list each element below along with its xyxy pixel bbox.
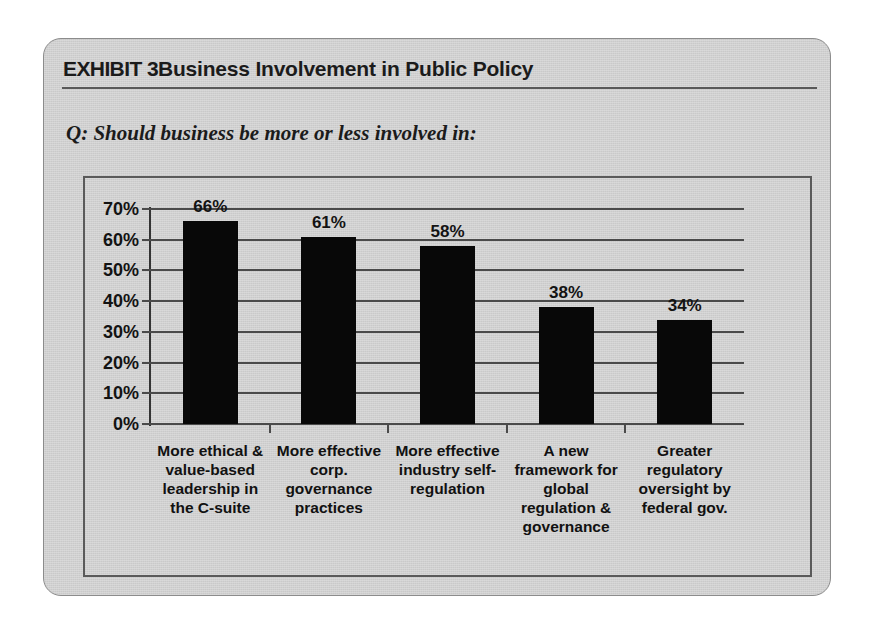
category-label-line: More effective bbox=[265, 441, 393, 460]
bar-value-label: 66% bbox=[193, 197, 227, 217]
category-label-line: regulation bbox=[384, 479, 512, 498]
exhibit-title-text: Business Involvement in Public Policy bbox=[158, 57, 533, 80]
category-label-line: corp. bbox=[265, 460, 393, 479]
category-label-line: federal gov. bbox=[621, 498, 749, 517]
y-axis-tick-label: 30% bbox=[103, 321, 139, 342]
category-label-line: practices bbox=[265, 498, 393, 517]
y-axis-tick bbox=[142, 423, 151, 425]
bar: 34% bbox=[657, 320, 712, 424]
category-label-line: global bbox=[502, 479, 630, 498]
y-axis-tick-label: 50% bbox=[103, 260, 139, 281]
y-axis-tick bbox=[142, 362, 151, 364]
y-axis-tick bbox=[142, 208, 151, 210]
bar: 66% bbox=[183, 221, 238, 424]
category-label-line: A new bbox=[502, 441, 630, 460]
y-axis-tick bbox=[142, 392, 151, 394]
category-label-line: the C-suite bbox=[146, 498, 274, 517]
category-label-line: oversight by bbox=[621, 479, 749, 498]
survey-question: Q: Should business be more or less invol… bbox=[66, 121, 477, 146]
category-label: More ethical &value-basedleadership inth… bbox=[146, 441, 274, 517]
plot-area: 70%60%50%40%30%20%10%0% 66%61%58%38%34% … bbox=[151, 209, 744, 424]
x-axis-tick bbox=[387, 424, 389, 433]
category-label-line: leadership in bbox=[146, 479, 274, 498]
bar-value-label: 61% bbox=[312, 213, 346, 233]
bar: 61% bbox=[301, 237, 356, 424]
y-axis-tick bbox=[142, 269, 151, 271]
category-label-line: More effective bbox=[384, 441, 512, 460]
x-axis-tick bbox=[506, 424, 508, 433]
y-axis-tick bbox=[142, 239, 151, 241]
category-label-line: regulatory bbox=[621, 460, 749, 479]
bar-value-label: 34% bbox=[668, 296, 702, 316]
exhibit-card: EXHIBIT 3Business Involvement in Public … bbox=[43, 38, 831, 596]
chart-frame: 70%60%50%40%30%20%10%0% 66%61%58%38%34% … bbox=[83, 176, 812, 577]
category-label-line: More ethical & bbox=[146, 441, 274, 460]
category-label: A newframework forglobalregulation &gove… bbox=[502, 441, 630, 536]
bar: 58% bbox=[420, 246, 475, 424]
category-label-line: governance bbox=[502, 517, 630, 536]
y-axis-tick-label: 20% bbox=[103, 352, 139, 373]
y-axis-tick-label: 10% bbox=[103, 383, 139, 404]
bar-value-label: 38% bbox=[549, 283, 583, 303]
category-label-line: Greater bbox=[621, 441, 749, 460]
page-title: EXHIBIT 3Business Involvement in Public … bbox=[63, 56, 815, 82]
y-axis-tick bbox=[142, 331, 151, 333]
category-label-line: industry self- bbox=[384, 460, 512, 479]
header-divider bbox=[62, 87, 817, 89]
category-label: Greaterregulatoryoversight byfederal gov… bbox=[621, 441, 749, 517]
category-label-line: regulation & bbox=[502, 498, 630, 517]
category-label: More effectivecorp.governancepractices bbox=[265, 441, 393, 517]
y-axis-tick-label: 0% bbox=[113, 414, 139, 435]
y-axis-tick-label: 60% bbox=[103, 229, 139, 250]
bar: 38% bbox=[539, 307, 594, 424]
category-label-line: value-based bbox=[146, 460, 274, 479]
category-label-line: framework for bbox=[502, 460, 630, 479]
exhibit-kicker: EXHIBIT 3 bbox=[63, 57, 158, 80]
y-axis-tick bbox=[142, 300, 151, 302]
y-axis-tick-label: 40% bbox=[103, 291, 139, 312]
category-label-line: governance bbox=[265, 479, 393, 498]
y-axis-tick-label: 70% bbox=[103, 199, 139, 220]
bar-value-label: 58% bbox=[430, 222, 464, 242]
x-axis-tick bbox=[269, 424, 271, 433]
gridline bbox=[151, 208, 744, 210]
category-label: More effectiveindustry self-regulation bbox=[384, 441, 512, 498]
x-axis-tick bbox=[624, 424, 626, 433]
